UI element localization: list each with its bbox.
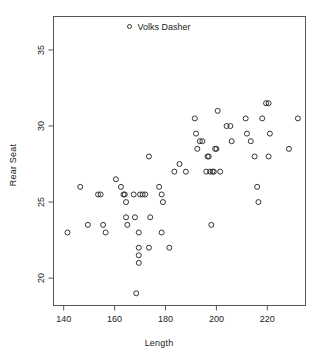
y-tick-label: 30 [36, 121, 46, 131]
data-point [192, 116, 197, 121]
y-tick-label: 20 [36, 273, 46, 283]
data-point [215, 108, 220, 113]
data-point [136, 245, 141, 250]
data-point [78, 184, 83, 189]
data-point [134, 291, 139, 296]
data-point [125, 222, 130, 227]
plot-canvas: 140160180200220 20253035 [0, 0, 318, 362]
data-point [132, 215, 137, 220]
x-tick-label: 160 [107, 314, 122, 324]
data-point [148, 215, 153, 220]
data-point [85, 222, 90, 227]
data-point [260, 116, 265, 121]
data-point [101, 222, 106, 227]
data-point [243, 116, 248, 121]
data-point [146, 154, 151, 159]
y-tick-label: 35 [36, 45, 46, 55]
data-point [267, 131, 272, 136]
data-point [255, 184, 260, 189]
data-point [167, 245, 172, 250]
data-point [160, 200, 165, 205]
y-tick-label: 25 [36, 197, 46, 207]
y-axis-ticks: 20253035 [36, 45, 54, 283]
data-point [252, 154, 257, 159]
data-point [209, 222, 214, 227]
x-axis-ticks: 140160180200220 [56, 306, 275, 324]
data-point [172, 169, 177, 174]
data-point [195, 146, 200, 151]
data-point [244, 131, 249, 136]
data-point [157, 184, 162, 189]
data-point [146, 245, 151, 250]
plot-frame [54, 17, 306, 306]
data-point [103, 230, 108, 235]
data-point [218, 169, 223, 174]
data-point [159, 230, 164, 235]
data-point [183, 169, 188, 174]
data-point [248, 139, 253, 144]
data-point [159, 192, 164, 197]
data-point [113, 177, 118, 182]
data-point [295, 116, 300, 121]
data-point [136, 253, 141, 258]
data-point [229, 139, 234, 144]
data-point [124, 200, 129, 205]
scatter-plot-figure: Volks Dasher Rear Seat Length 1401601802… [0, 0, 318, 362]
data-point [136, 260, 141, 265]
data-point [136, 230, 141, 235]
data-point [194, 131, 199, 136]
data-point [118, 184, 123, 189]
x-tick-label: 180 [158, 314, 173, 324]
data-point [266, 154, 271, 159]
data-point [131, 192, 136, 197]
data-point [65, 230, 70, 235]
data-point [286, 146, 291, 151]
data-point [256, 200, 261, 205]
data-point-group [65, 101, 300, 296]
x-tick-label: 200 [209, 314, 224, 324]
data-point [177, 162, 182, 167]
x-tick-label: 220 [260, 314, 275, 324]
data-point [124, 215, 129, 220]
x-tick-label: 140 [56, 314, 71, 324]
